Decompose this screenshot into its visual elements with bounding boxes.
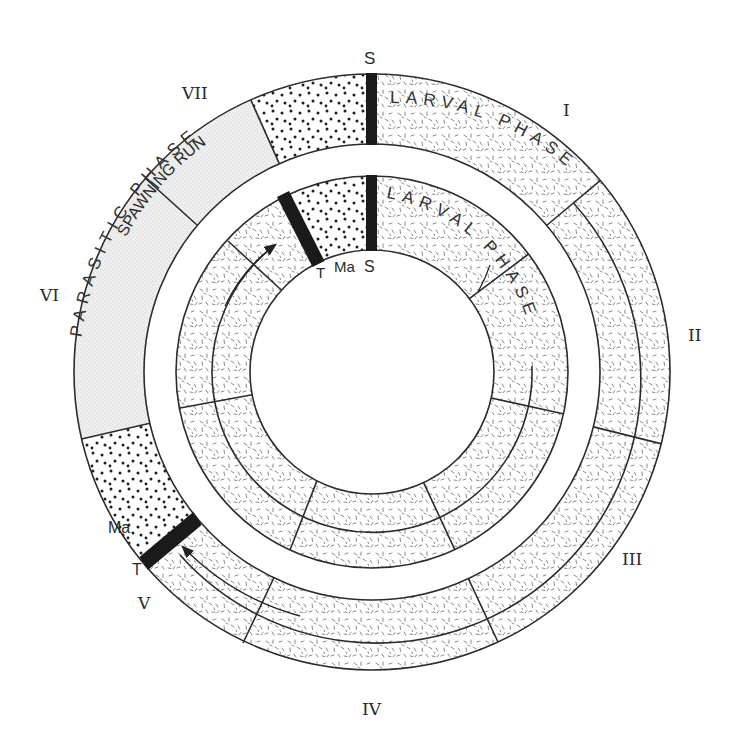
outer-spawning-bar: [366, 73, 377, 145]
season-label-6: VI: [39, 285, 59, 305]
outer-metamorphosis-marker: Ma: [108, 519, 130, 536]
inner-ring: [176, 175, 568, 568]
inner-transformation-marker: T: [316, 264, 325, 281]
season-label-3: III: [622, 549, 642, 569]
season-label-4: IV: [362, 699, 382, 719]
season-label-5: V: [137, 593, 151, 613]
season-label-7: VII: [181, 83, 208, 103]
inner-spawning-bar: [366, 175, 377, 251]
inner-spawning-marker: S: [364, 258, 375, 275]
season-label-1: I: [563, 100, 570, 120]
lamprey-life-cycle-diagram: SPAWNING RUN LARVAL PHASE PARASITIC PHAS…: [0, 0, 738, 748]
outer-transformation-marker: T: [132, 561, 142, 578]
outer-spawning-marker: S: [364, 49, 375, 68]
inner-metamorphosis-marker: Ma: [334, 258, 355, 275]
season-label-2: II: [688, 325, 701, 345]
